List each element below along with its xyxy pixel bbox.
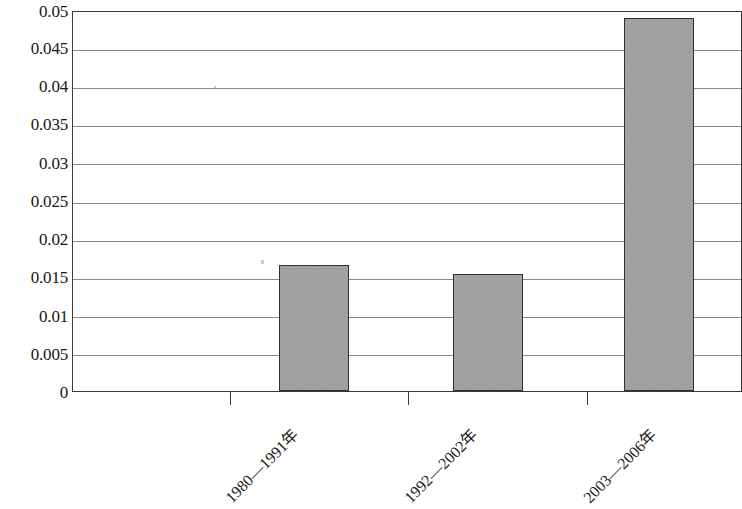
y-tick-label: 0.03 — [2, 155, 68, 172]
y-tick-label: 0 — [2, 384, 68, 401]
y-axis-labels: 0.05 0.045 0.04 0.035 0.03 0.025 0.02 0.… — [0, 0, 68, 509]
y-tick-label: 0.035 — [2, 116, 68, 133]
y-tick-label: 0.05 — [2, 3, 68, 20]
x-tick-mark — [230, 392, 231, 405]
x-tick-mark — [408, 392, 409, 405]
x-tick-label-2003-2006: 2003—2006年 — [580, 426, 661, 507]
y-tick-label: 0.005 — [2, 346, 68, 363]
y-tick-label: 0.04 — [2, 78, 68, 95]
y-tick-label: 0.02 — [2, 231, 68, 248]
y-tick-label: 0.025 — [2, 193, 68, 210]
bar-1992-2002 — [453, 274, 523, 391]
y-tick-label: 0.01 — [2, 308, 68, 325]
bar-2003-2006 — [624, 18, 694, 391]
y-tick-label: 0.015 — [2, 269, 68, 286]
x-tick-label-1980-1991: 1980—1991年 — [222, 426, 303, 507]
scan-speck — [214, 86, 216, 88]
bar-chart: 0.05 0.045 0.04 0.035 0.03 0.025 0.02 0.… — [0, 0, 742, 509]
scan-speck — [261, 260, 264, 264]
plot-area — [72, 11, 742, 392]
bar-1980-1991 — [279, 265, 349, 392]
y-tick-label: 0.045 — [2, 40, 68, 57]
x-tick-label-1992-2002: 1992—2002年 — [401, 426, 482, 507]
x-tick-mark — [587, 392, 588, 405]
